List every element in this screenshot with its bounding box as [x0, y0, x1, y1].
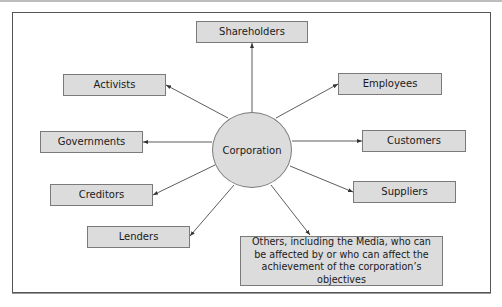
- node-label-line: achievement of the corporation’s objecti…: [245, 261, 438, 286]
- corporation-node: Corporation: [212, 112, 292, 188]
- node-suppliers: Suppliers: [353, 181, 456, 203]
- node-label: Employees: [363, 78, 418, 90]
- edge-activists: [166, 85, 228, 118]
- edge-creditors: [153, 165, 215, 195]
- node-label: Activists: [94, 79, 136, 91]
- node-lenders: Lenders: [87, 226, 190, 248]
- node-creditors: Creditors: [50, 184, 153, 206]
- node-activists: Activists: [63, 74, 166, 96]
- edge-employees: [276, 84, 338, 118]
- edge-suppliers: [290, 166, 353, 192]
- node-label: Creditors: [79, 189, 125, 201]
- node-label: Governments: [58, 136, 126, 148]
- node-others: Others, including the Media, who can be …: [240, 236, 443, 286]
- node-label: Lenders: [119, 231, 159, 243]
- node-shareholders: Shareholders: [196, 21, 308, 43]
- corporation-label: Corporation: [222, 145, 281, 156]
- edge-others: [271, 185, 310, 235]
- node-label: Suppliers: [381, 186, 427, 198]
- node-label-line: Others, including the Media, who can: [252, 236, 431, 249]
- edge-lenders: [190, 185, 234, 236]
- node-label-line: be affected by or who can affect the: [254, 249, 429, 262]
- node-governments: Governments: [40, 131, 143, 153]
- node-label: Shareholders: [219, 26, 285, 38]
- node-customers: Customers: [362, 130, 466, 152]
- node-employees: Employees: [338, 73, 442, 95]
- node-label: Customers: [387, 135, 441, 147]
